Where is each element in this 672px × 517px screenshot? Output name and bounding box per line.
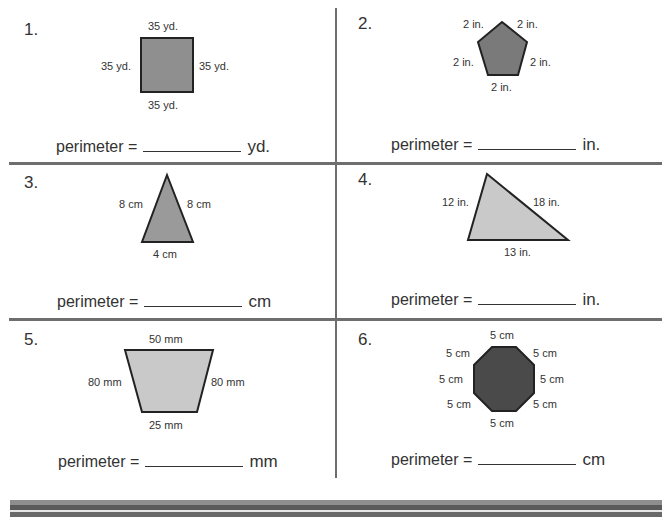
- answer-blank-1[interactable]: [143, 150, 241, 152]
- isosceles-triangle-shape: [142, 175, 193, 242]
- answer-blank-5[interactable]: [145, 465, 243, 467]
- shapes-layer: [0, 0, 672, 517]
- octagon-shape: [474, 347, 534, 411]
- perimeter-label: perimeter =: [391, 136, 472, 154]
- unit-label: in.: [582, 290, 600, 310]
- perimeter-label: perimeter =: [391, 291, 472, 309]
- side-label-left: 12 in.: [442, 196, 469, 208]
- problem-number-4: 4.: [358, 170, 372, 190]
- unit-label: cm: [582, 450, 605, 470]
- side-label-left: 80 mm: [88, 376, 122, 388]
- perimeter-label: perimeter =: [57, 293, 138, 311]
- side-label-right: 35 yd.: [199, 60, 229, 72]
- side-label-right: 80 mm: [211, 376, 245, 388]
- answer-blank-2[interactable]: [478, 148, 576, 150]
- side-label-top: 50 mm: [149, 333, 183, 345]
- side-label-bottom: 5 cm: [490, 417, 514, 429]
- side-label-top: 5 cm: [490, 329, 514, 341]
- perimeter-label: perimeter =: [391, 451, 472, 469]
- unit-label: mm: [249, 452, 277, 472]
- problem-number-5: 5.: [24, 330, 38, 350]
- perimeter-line-4: perimeter = in.: [391, 290, 600, 310]
- side-label-bottom: 25 mm: [149, 419, 183, 431]
- perimeter-line-1: perimeter = yd.: [56, 137, 270, 157]
- side-label-right: 8 cm: [187, 198, 211, 210]
- unit-label: cm: [248, 292, 271, 312]
- problem-number-6: 6.: [358, 330, 372, 350]
- side-label-bottom: 2 in.: [491, 81, 512, 93]
- perimeter-line-5: perimeter = mm: [58, 452, 278, 472]
- side-label-top-right: 5 cm: [533, 347, 557, 359]
- side-label-right: 5 cm: [540, 373, 564, 385]
- perimeter-line-2: perimeter = in.: [391, 135, 600, 155]
- side-label-left: 8 cm: [119, 198, 143, 210]
- problem-number-1: 1.: [24, 20, 38, 40]
- perimeter-line-3: perimeter = cm: [57, 292, 271, 312]
- perimeter-label: perimeter =: [58, 453, 139, 471]
- side-label-bottom: 35 yd.: [148, 99, 178, 111]
- perimeter-label: perimeter =: [56, 138, 137, 156]
- side-label-right: 18 in.: [533, 196, 560, 208]
- answer-blank-3[interactable]: [144, 305, 242, 307]
- side-label-top: 35 yd.: [148, 20, 178, 32]
- side-label-bottom: 13 in.: [504, 246, 531, 258]
- problem-number-3: 3.: [24, 173, 38, 193]
- problem-number-2: 2.: [358, 14, 372, 34]
- side-label-left: 2 in.: [453, 56, 474, 68]
- side-label-left: 5 cm: [439, 373, 463, 385]
- side-label-right: 2 in.: [530, 56, 551, 68]
- side-label-left: 35 yd.: [101, 60, 131, 72]
- side-label-bottom: 4 cm: [153, 248, 177, 260]
- side-label-top-right: 2 in.: [517, 18, 538, 30]
- unit-label: yd.: [247, 137, 270, 157]
- answer-blank-4[interactable]: [478, 303, 576, 305]
- side-label-bottom-right: 5 cm: [533, 398, 557, 410]
- side-label-top-left: 2 in.: [463, 18, 484, 30]
- unit-label: in.: [582, 135, 600, 155]
- answer-blank-6[interactable]: [478, 463, 576, 465]
- footer-decorative-bar: [10, 500, 662, 517]
- square-shape: [141, 38, 193, 92]
- trapezoid-shape: [125, 350, 213, 412]
- perimeter-line-6: perimeter = cm: [391, 450, 605, 470]
- side-label-bottom-left: 5 cm: [447, 398, 471, 410]
- side-label-top-left: 5 cm: [446, 347, 470, 359]
